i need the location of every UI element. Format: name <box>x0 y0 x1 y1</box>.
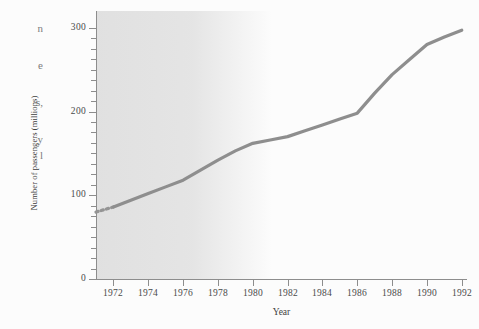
y-axis-line <box>96 11 97 280</box>
y-axis-minor-tick <box>91 258 96 259</box>
y-axis-minor-tick <box>91 227 96 228</box>
x-axis-tick-label: 1972 <box>93 288 133 298</box>
y-axis-minor-tick <box>91 248 96 249</box>
x-axis-major-tick <box>218 280 219 286</box>
y-axis-tick-label: 0 <box>46 273 86 283</box>
x-axis-title: Year <box>96 307 467 317</box>
x-axis-line <box>96 279 467 280</box>
y-axis-minor-tick <box>91 38 96 39</box>
x-axis-major-tick <box>357 280 358 286</box>
y-axis-minor-tick <box>91 237 96 238</box>
x-axis-major-tick <box>322 280 323 286</box>
y-axis-minor-tick <box>91 153 96 154</box>
y-axis-title: Number of passengers (millions) <box>29 83 39 223</box>
x-axis-tick-label: 1980 <box>233 288 273 298</box>
y-axis-tick-label: 100 <box>46 189 86 199</box>
y-axis-minor-tick <box>91 122 96 123</box>
y-axis-major-tick <box>89 279 96 280</box>
y-axis-minor-tick <box>91 164 96 165</box>
page-canvas: n e s, y l 0100200300 197219741976197819… <box>0 0 479 329</box>
y-axis-minor-tick <box>91 143 96 144</box>
plot-background-shading <box>96 11 272 279</box>
y-axis-tick-label: 300 <box>46 22 86 32</box>
x-axis-major-tick <box>113 280 114 286</box>
x-axis-tick-label: 1988 <box>372 288 412 298</box>
y-axis-minor-tick <box>91 216 96 217</box>
x-axis-major-tick <box>392 280 393 286</box>
x-axis-tick-label: 1992 <box>442 288 479 298</box>
x-axis-tick-label: 1978 <box>198 288 238 298</box>
x-axis-major-tick <box>462 280 463 286</box>
y-axis-minor-tick <box>91 185 96 186</box>
x-axis-major-tick <box>288 280 289 286</box>
line-chart: 0100200300 19721974197619781980198219841… <box>0 0 479 329</box>
x-axis-tick-label: 1974 <box>128 288 168 298</box>
x-axis-tick-label: 1986 <box>337 288 377 298</box>
y-axis-minor-tick <box>91 59 96 60</box>
y-axis-minor-tick <box>91 132 96 133</box>
y-axis-minor-tick <box>91 269 96 270</box>
y-axis-major-tick <box>89 195 96 196</box>
y-axis-major-tick <box>89 28 96 29</box>
y-axis-tick-label: 200 <box>46 106 86 116</box>
x-axis-tick-label: 1990 <box>407 288 447 298</box>
y-axis-minor-tick <box>91 80 96 81</box>
x-axis-major-tick <box>148 280 149 286</box>
y-axis-minor-tick <box>91 174 96 175</box>
y-axis-minor-tick <box>91 70 96 71</box>
y-axis-minor-tick <box>91 49 96 50</box>
y-axis-minor-tick <box>91 101 96 102</box>
x-axis-tick-label: 1976 <box>163 288 203 298</box>
x-axis-major-tick <box>253 280 254 286</box>
y-axis-minor-tick <box>91 91 96 92</box>
x-axis-tick-label: 1984 <box>302 288 342 298</box>
y-axis-major-tick <box>89 112 96 113</box>
x-axis-major-tick <box>183 280 184 286</box>
y-axis-minor-tick <box>91 206 96 207</box>
x-axis-major-tick <box>427 280 428 286</box>
